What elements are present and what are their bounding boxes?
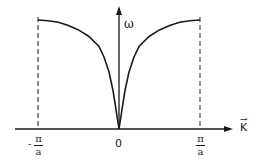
tick-sign: - bbox=[28, 138, 31, 149]
y-axis-label: ω bbox=[124, 18, 134, 30]
tick-numerator: π bbox=[35, 134, 42, 144]
x-axis-arrowhead bbox=[224, 126, 233, 132]
dispersion-curve-left bbox=[38, 20, 119, 129]
tick-label-zero: 0 bbox=[115, 138, 122, 149]
tick-label-minus-pi-over-a: - π a bbox=[34, 134, 43, 157]
tick-denominator: a bbox=[198, 147, 204, 157]
dispersion-curve-right bbox=[119, 20, 200, 129]
y-axis-arrowhead bbox=[116, 6, 122, 15]
x-axis-label: K bbox=[240, 122, 247, 133]
tick-denominator: a bbox=[36, 147, 42, 157]
tick-label-pi-over-a: π a bbox=[196, 134, 205, 157]
tick-numerator: π bbox=[197, 134, 204, 144]
